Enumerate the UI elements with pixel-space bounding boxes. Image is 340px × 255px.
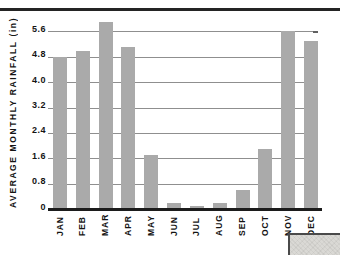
y-tick-label: 2.4 (14, 126, 46, 135)
y-tick-label: 4.8 (14, 50, 46, 59)
x-tick-label-apr: APR (123, 213, 134, 236)
bar-dec (304, 41, 318, 209)
x-tick-label-jun: JUN (169, 213, 180, 236)
bar-mar (99, 22, 113, 209)
x-tick-label-feb: FEB (77, 213, 88, 236)
gridline (48, 31, 317, 32)
gridline-right-tick (313, 31, 318, 33)
bar-nov (281, 31, 295, 209)
bar-oct (258, 149, 272, 209)
scanned-page: AVERAGE MONTHLY RAINFALL (in) 00.81.62.4… (0, 0, 340, 255)
x-tick-label-aug: AUG (214, 213, 225, 236)
y-tick-label: 4.0 (14, 76, 46, 85)
bar-sep (236, 190, 250, 209)
x-tick-label-jan: JAN (55, 213, 66, 236)
bar-may (144, 155, 158, 209)
y-tick-label: 0.8 (14, 177, 46, 186)
x-tick-label-sep: SEP (237, 213, 248, 236)
y-tick-label: 3.2 (14, 101, 46, 110)
adjacent-image-fragment (288, 233, 340, 255)
x-tick-label-jul: JUL (191, 213, 202, 236)
y-tick-label: 1.6 (14, 152, 46, 161)
y-tick-label: 0 (14, 203, 46, 212)
x-tick-label-mar: MAR (100, 213, 111, 236)
x-tick-label-oct: OCT (260, 213, 271, 236)
y-tick-label: 5.6 (14, 25, 46, 34)
bar-feb (76, 51, 90, 210)
x-axis-line (48, 208, 322, 211)
bar-jan (53, 57, 67, 209)
x-tick-label-may: MAY (146, 213, 157, 236)
bar-apr (121, 47, 135, 209)
plot-area: 00.81.62.43.24.04.85.6JANFEBMARAPRMAYJUN… (0, 0, 340, 255)
